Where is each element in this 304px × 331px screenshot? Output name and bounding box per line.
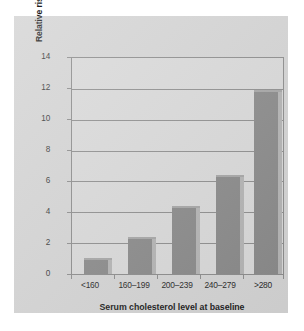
y-tick-label-6: 6 xyxy=(10,177,50,185)
plot-area xyxy=(71,57,284,275)
y-tick-label-4: 4 xyxy=(10,208,50,216)
gridline-10 xyxy=(72,120,283,121)
bar-gt280[interactable] xyxy=(254,92,278,274)
x-tick-label-240-279: 240–279 xyxy=(193,280,247,290)
x-tick-mark-3 xyxy=(200,275,201,279)
x-axis-title: Serum cholesterol level at baseline xyxy=(57,302,287,312)
y-tick-label-14: 14 xyxy=(10,53,50,61)
gridline-8 xyxy=(72,151,283,152)
figure-panel: Relative risk of mortality due to corona… xyxy=(14,16,288,313)
y-tick-label-10: 10 xyxy=(10,115,50,123)
x-tick-mark-5 xyxy=(283,275,284,279)
bar-160-199[interactable] xyxy=(128,239,152,275)
bar-240-279[interactable] xyxy=(216,177,240,274)
bar-200-239[interactable] xyxy=(172,208,196,274)
x-tick-mark-1 xyxy=(114,275,115,279)
y-tick-label-8: 8 xyxy=(10,146,50,154)
bar-lt160[interactable] xyxy=(84,260,108,274)
y-tick-label-12: 12 xyxy=(10,84,50,92)
y-tick-label-0: 0 xyxy=(10,270,50,278)
x-tick-mark-4 xyxy=(243,275,244,279)
gridline-12 xyxy=(72,89,283,90)
x-tick-mark-0 xyxy=(71,275,72,279)
y-axis-title: Relative risk of mortality due to corona… xyxy=(32,0,46,58)
gridline-6 xyxy=(72,181,283,182)
y-tick-label-2: 2 xyxy=(10,239,50,247)
x-tick-mark-2 xyxy=(157,275,158,279)
x-tick-label-gt280: >280 xyxy=(240,280,286,290)
